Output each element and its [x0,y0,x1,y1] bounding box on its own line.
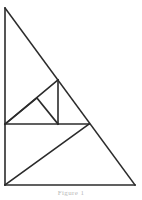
figure-canvas: Figure 1 [0,0,142,200]
geometric-figure-svg [0,0,142,200]
